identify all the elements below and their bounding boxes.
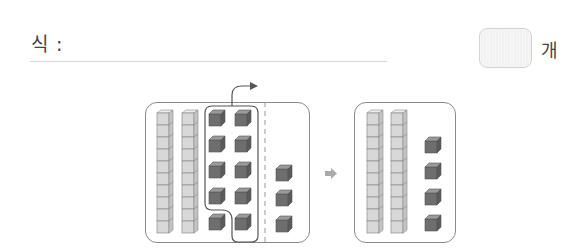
after-ones-cubes	[425, 137, 441, 231]
before-tens-rods	[157, 110, 198, 233]
base-ten-blocks-diagram	[0, 0, 584, 250]
right-arrow-icon	[325, 168, 337, 179]
grouped-ones-cubes	[209, 110, 251, 230]
remaining-ones-cubes	[276, 165, 292, 232]
after-tens-rods	[367, 110, 407, 233]
curved-arrow-icon	[232, 86, 252, 106]
